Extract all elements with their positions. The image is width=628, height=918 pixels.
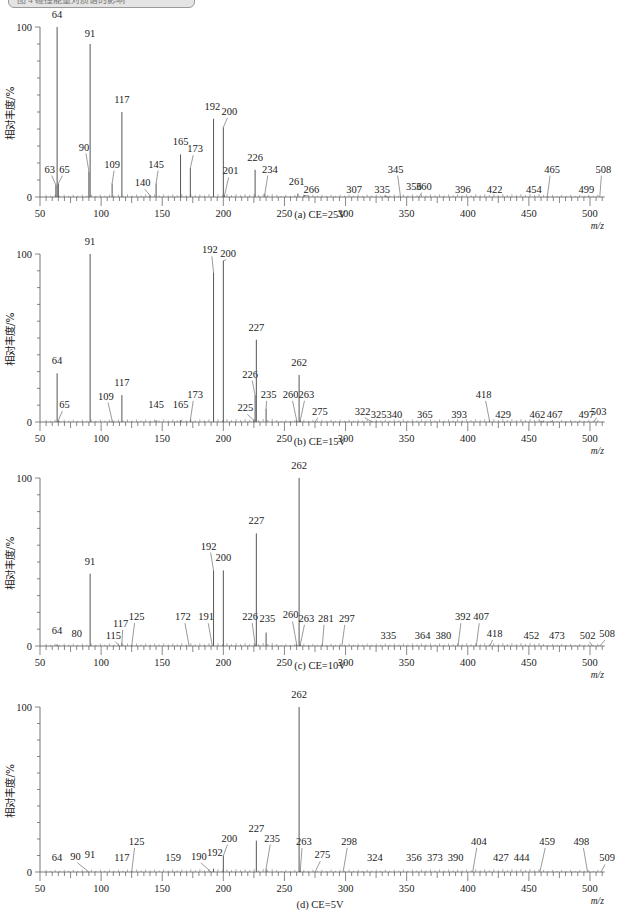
- peak-label: 200: [222, 106, 238, 117]
- peak-label: 365: [417, 409, 433, 420]
- spectrum-panel-c: 0100相对丰度/%50100150200250300350400450500m…: [4, 460, 615, 680]
- peak-label: 109: [98, 391, 114, 402]
- peak-label: 418: [476, 389, 492, 400]
- x-tick-label: 450: [521, 883, 537, 894]
- peak-label: 335: [380, 630, 396, 641]
- peak-label: 227: [248, 322, 264, 333]
- x-tick-label: 200: [215, 883, 231, 894]
- peak-label: 459: [539, 836, 555, 847]
- peak-label: 298: [341, 836, 357, 847]
- peak-label: 165: [173, 399, 189, 410]
- x-tick-label: 400: [460, 657, 476, 668]
- peak-label: 275: [312, 406, 328, 417]
- x-tick-label: 100: [93, 883, 109, 894]
- peak-label: 226: [242, 611, 258, 622]
- peak-label: 260: [283, 609, 299, 620]
- peak-label: 173: [187, 143, 203, 154]
- peak-label: 322: [355, 406, 371, 417]
- peak-label: 190: [191, 851, 207, 862]
- peak-label: 64: [52, 625, 63, 636]
- x-tick-label: 250: [277, 208, 293, 219]
- peak-label: 345: [388, 164, 404, 175]
- peak-label: 418: [487, 628, 503, 639]
- peak-label: 145: [148, 399, 164, 410]
- peak-label: 364: [415, 630, 432, 641]
- x-tick-label: 150: [154, 883, 170, 894]
- peak-label: 117: [114, 94, 129, 105]
- peak-label: 200: [215, 552, 231, 563]
- peak-label: 192: [207, 847, 223, 858]
- mass-spectra-figure: 0100相对丰度/%50100150200250300350400450500m…: [0, 0, 628, 918]
- peak-label: 262: [291, 357, 307, 368]
- x-tick-label: 150: [154, 657, 170, 668]
- peak-label: 509: [599, 852, 615, 863]
- peak-label: 360: [416, 181, 432, 192]
- peak-label: 63: [45, 164, 56, 175]
- y-tick-label: 100: [16, 473, 32, 484]
- peak-label: 227: [248, 515, 264, 526]
- peak-label: 297: [339, 613, 355, 624]
- x-tick-label: 50: [35, 657, 46, 668]
- peak-label: 64: [52, 355, 63, 366]
- spectrum-panel-d: 0100相对丰度/%50100150200250300350400450500m…: [4, 689, 615, 911]
- y-tick-label: 0: [27, 192, 32, 203]
- peak-label: 192: [204, 101, 220, 112]
- peak-label: 91: [85, 556, 96, 567]
- x-tick-label: 200: [215, 433, 231, 444]
- peak-label: 226: [247, 152, 263, 163]
- peak-label: 452: [523, 630, 539, 641]
- peak-label: 499: [578, 184, 594, 195]
- x-tick-label: 100: [93, 433, 109, 444]
- x-axis-label: m/z: [591, 446, 605, 456]
- x-tick-label: 200: [215, 208, 231, 219]
- y-tick-label: 100: [16, 249, 32, 260]
- peak-label: 192: [202, 244, 218, 255]
- panel-caption: (c) CE=10V: [294, 660, 346, 672]
- x-tick-label: 250: [277, 433, 293, 444]
- peak-label: 91: [85, 28, 96, 39]
- peak-label: 422: [487, 184, 503, 195]
- peak-label: 263: [296, 836, 312, 847]
- peak-label: 191: [198, 611, 214, 622]
- peak-label: 392: [455, 611, 471, 622]
- peak-label: 498: [574, 836, 590, 847]
- peak-label: 145: [148, 159, 164, 170]
- y-axis-label: 相对丰度/%: [4, 86, 16, 140]
- peak-label: 201: [223, 165, 239, 176]
- peak-label: 393: [451, 409, 467, 420]
- x-axis-label: m/z: [591, 896, 605, 906]
- peak-label: 324: [367, 852, 384, 863]
- peak-label: 117: [114, 377, 129, 388]
- peak-label: 117: [114, 852, 129, 863]
- x-axis-label: m/z: [591, 221, 605, 231]
- peak-label: 64: [52, 852, 63, 863]
- x-tick-label: 500: [582, 883, 598, 894]
- x-tick-label: 250: [277, 883, 293, 894]
- x-tick-label: 150: [154, 433, 170, 444]
- x-tick-label: 100: [93, 657, 109, 668]
- x-tick-label: 500: [582, 657, 598, 668]
- peak-label: 159: [165, 852, 181, 863]
- x-tick-label: 50: [35, 433, 46, 444]
- y-axis-label: 相对丰度/%: [4, 764, 16, 818]
- peak-label: 91: [85, 849, 96, 860]
- y-tick-label: 100: [16, 22, 32, 33]
- panel-caption: (a) CE=25V: [294, 209, 346, 221]
- peak-label: 260: [283, 389, 299, 400]
- peak-label: 261: [289, 176, 305, 187]
- peak-label: 64: [52, 9, 63, 20]
- spectrum-panel-a: 0100相对丰度/%50100150200250300350400450500m…: [4, 9, 611, 231]
- peak-label: 173: [187, 389, 203, 400]
- peak-label: 235: [259, 613, 275, 624]
- spectrum-panel-b: 0100相对丰度/%50100150200250300350400450500m…: [4, 236, 606, 456]
- panel-caption: (b) CE=15V: [294, 436, 347, 448]
- x-tick-label: 500: [582, 433, 598, 444]
- peak-label: 200: [220, 248, 236, 259]
- peak-label: 444: [514, 852, 531, 863]
- peak-label: 109: [104, 159, 120, 170]
- peak-label: 307: [346, 184, 362, 195]
- peak-label: 200: [222, 833, 238, 844]
- peak-label: 325: [371, 409, 387, 420]
- x-tick-label: 150: [154, 208, 170, 219]
- peak-label: 266: [303, 184, 319, 195]
